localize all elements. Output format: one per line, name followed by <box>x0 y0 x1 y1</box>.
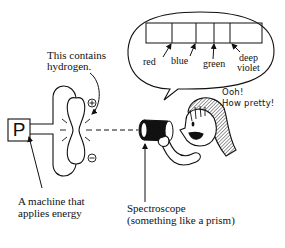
spectrum-label-violet: violet <box>237 63 260 73</box>
discharge-tube <box>67 98 84 164</box>
negative-terminal-icon <box>88 154 96 162</box>
hydrogen-label-line2: hydrogen. <box>47 61 91 72</box>
hydrogen-arrow <box>90 73 99 114</box>
machine-arrow <box>29 137 42 188</box>
spectrum-label-green: green <box>203 59 225 69</box>
machine-symbol: P <box>8 119 30 141</box>
exclamation-line1: Ooh! <box>222 87 244 98</box>
positive-terminal-icon <box>88 99 96 107</box>
machine-label-line2: applies energy <box>18 208 82 219</box>
spectroscope-label-line2: (something like a prism) <box>127 215 235 226</box>
spectroscope-label-line1: Spectroscope <box>127 203 186 214</box>
spectrum-label-red: red <box>143 57 156 67</box>
exclamation-line2: How pretty! <box>222 98 274 109</box>
machine-label-line1: A machine that <box>18 196 85 207</box>
spectrum-label-blue: blue <box>171 56 188 66</box>
